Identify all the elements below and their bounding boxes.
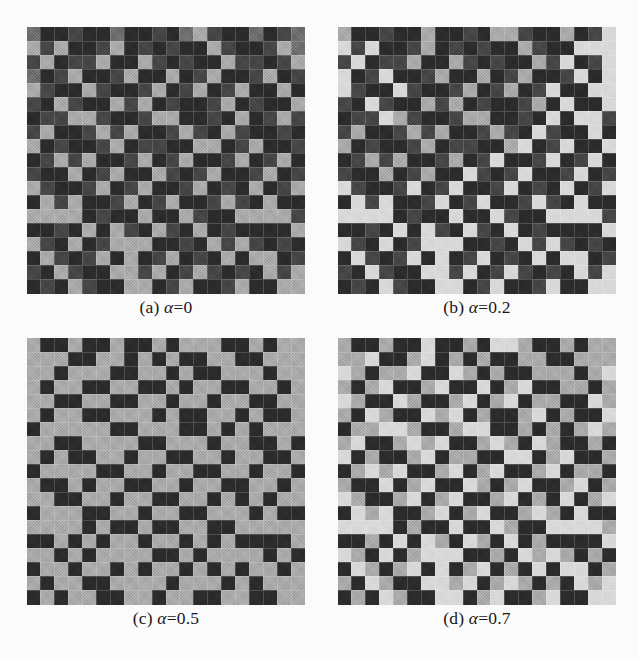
caption-d-index: (d) [443,608,464,628]
caption-panel-b: (b) α=0.2 [338,297,616,318]
caption-panel-d: (d) α=0.7 [338,608,616,629]
heatmap-b [338,27,616,294]
caption-d-alpha-symbol: α [469,608,478,628]
caption-b-alpha-symbol: α [469,297,478,317]
figure-root: (a) α=0 (b) α=0.2 (c) α=0.5 [0,0,639,659]
panel-a: (a) α=0 [27,27,305,294]
caption-a-equals: = [173,297,183,317]
caption-c-index: (c) [133,608,153,628]
heatmap-canvas-d [338,338,616,605]
caption-c-value: 0.5 [177,608,199,628]
caption-c-alpha-symbol: α [157,608,166,628]
caption-b-index: (b) [443,297,464,317]
heatmap-canvas-c [27,338,305,605]
heatmap-c [27,338,305,605]
caption-b-value: 0.2 [488,297,510,317]
heatmap-canvas-a [27,27,305,294]
caption-a-index: (a) [139,297,159,317]
panel-b: (b) α=0.2 [338,27,616,294]
caption-panel-c: (c) α=0.5 [27,608,305,629]
caption-panel-a: (a) α=0 [27,297,305,318]
panel-c: (c) α=0.5 [27,338,305,605]
caption-a-value: 0 [184,297,193,317]
caption-b-equals: = [478,297,488,317]
caption-d-equals: = [478,608,488,628]
caption-c-equals: = [167,608,177,628]
heatmap-d [338,338,616,605]
panel-d: (d) α=0.7 [338,338,616,605]
caption-d-value: 0.7 [488,608,510,628]
heatmap-canvas-b [338,27,616,294]
heatmap-a [27,27,305,294]
